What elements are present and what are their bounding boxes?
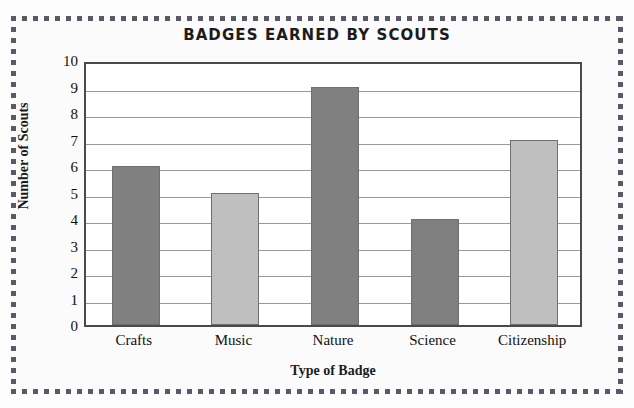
x-axis-tick-labels: CraftsMusicNatureScienceCitizenship (84, 332, 582, 356)
y-axis-tick-label: 2 (50, 266, 78, 281)
y-axis-tick-label: 0 (50, 319, 78, 334)
bar (510, 140, 558, 326)
y-axis-tick-label: 7 (50, 134, 78, 149)
y-axis-tick-label: 1 (50, 293, 78, 308)
x-axis-title: Type of Badge (84, 363, 582, 379)
y-axis-tick-label: 10 (50, 54, 78, 69)
x-axis-tick-label: Crafts (84, 332, 184, 349)
chart-page: BADGES EARNED BY SCOUTS Number of Scouts… (0, 0, 634, 408)
y-axis-tick-labels: 109876543210 (50, 62, 78, 327)
x-axis-tick-label: Music (184, 332, 284, 349)
x-axis-tick-label: Citizenship (482, 332, 582, 349)
y-axis-tick-label: 8 (50, 107, 78, 122)
x-axis-tick-label: Science (383, 332, 483, 349)
chart-title: BADGES EARNED BY SCOUTS (0, 26, 634, 44)
y-axis-tick-label: 4 (50, 213, 78, 228)
bar (411, 219, 459, 325)
y-axis-tick-label: 6 (50, 160, 78, 175)
bars-layer (86, 64, 580, 325)
bar (211, 193, 259, 326)
y-axis-tick-label: 9 (50, 81, 78, 96)
y-axis-tick-label: 5 (50, 187, 78, 202)
y-axis-tick-label: 3 (50, 240, 78, 255)
x-axis-tick-label: Nature (283, 332, 383, 349)
bar (112, 166, 160, 325)
plot-area (84, 62, 582, 327)
bar (311, 87, 359, 326)
y-axis-title: Number of Scouts (16, 86, 32, 226)
